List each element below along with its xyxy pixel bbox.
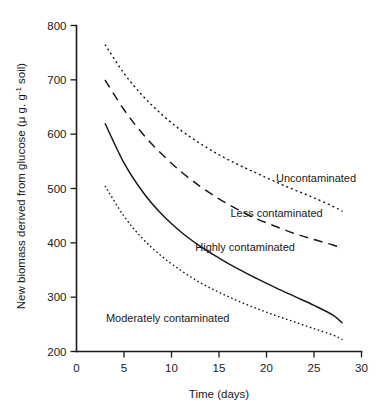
chart-figure: 200300400500600700800 051015202530 Uncon… bbox=[0, 0, 391, 415]
y-tick-label: 700 bbox=[47, 74, 66, 86]
x-tick-label: 20 bbox=[260, 362, 273, 374]
y-tick-label: 600 bbox=[47, 128, 66, 140]
y-tick-label: 800 bbox=[47, 20, 66, 32]
y-tick-label: 200 bbox=[47, 346, 66, 358]
y-tick-label: 500 bbox=[47, 183, 66, 195]
series-label: Moderately contaminated bbox=[106, 312, 230, 324]
line-chart-canvas: 200300400500600700800 051015202530 Uncon… bbox=[0, 0, 391, 415]
x-tick-label: 10 bbox=[165, 362, 178, 374]
series-annotations: UncontaminatedLess contaminatedHighly co… bbox=[106, 172, 356, 324]
x-tick-label: 0 bbox=[73, 362, 79, 374]
x-tick-label: 15 bbox=[213, 362, 226, 374]
x-axis-ticks: 051015202530 bbox=[73, 352, 368, 374]
x-tick-label: 5 bbox=[121, 362, 127, 374]
y-tick-label: 300 bbox=[47, 291, 66, 303]
data-series-group bbox=[105, 45, 343, 340]
y-tick-label: 400 bbox=[47, 237, 66, 249]
y-axis-title: New biomass derived from glucose (μ g. g… bbox=[14, 63, 27, 310]
svg-text:New biomass derived from gluco: New biomass derived from glucose (μ g. g… bbox=[14, 63, 27, 310]
series-label: Less contaminated bbox=[230, 207, 322, 219]
x-axis-title: Time (days) bbox=[189, 388, 249, 400]
series-label: Highly contaminated bbox=[195, 241, 295, 253]
x-tick-label: 30 bbox=[355, 362, 368, 374]
y-axis-title-main: New biomass derived from glucose (μ g. g bbox=[15, 94, 27, 309]
series-curve bbox=[105, 45, 343, 212]
series-label: Uncontaminated bbox=[276, 172, 356, 184]
series-curve bbox=[105, 123, 343, 323]
axes bbox=[77, 26, 362, 352]
x-tick-label: 25 bbox=[308, 362, 321, 374]
series-curve bbox=[105, 80, 343, 248]
y-axis-title-tail: soil) bbox=[15, 63, 27, 87]
y-axis-ticks: 200300400500600700800 bbox=[47, 20, 76, 358]
